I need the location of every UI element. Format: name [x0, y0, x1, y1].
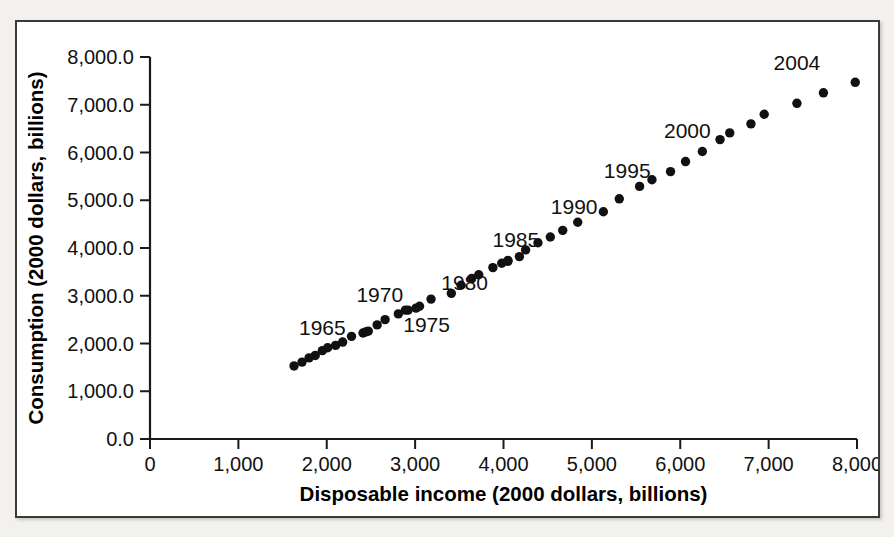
year-annotation-label: 1965 — [299, 316, 346, 339]
y-tick-label: 4,000.0 — [67, 237, 134, 259]
scatter-plot: 0.01,000.02,000.03,000.04,000.05,000.06,… — [17, 22, 878, 516]
data-point — [503, 257, 512, 266]
x-tick-label: 4,000 — [478, 453, 528, 475]
year-annotation-label: 1980 — [441, 271, 488, 294]
x-tick-label: 0 — [144, 453, 155, 475]
x-tick-labels-group: 01,0002,0003,0004,0005,0006,0007,0008,00… — [144, 453, 878, 475]
data-point — [558, 226, 567, 235]
year-annotation-label: 2000 — [664, 119, 711, 142]
y-tick-label: 0.0 — [106, 428, 134, 450]
data-point — [426, 294, 435, 303]
axis-ticks-group — [140, 57, 857, 449]
year-annotations-group: 196519701975198019851990199520002004 — [299, 51, 821, 339]
year-annotation-label: 1995 — [604, 159, 651, 182]
y-tick-label: 6,000.0 — [67, 142, 134, 164]
x-tick-label: 3,000 — [390, 453, 440, 475]
y-tick-label: 3,000.0 — [67, 285, 134, 307]
y-tick-label: 8,000.0 — [67, 46, 134, 68]
data-point — [725, 128, 734, 137]
data-point — [698, 147, 707, 156]
data-point — [372, 320, 381, 329]
data-point — [615, 194, 624, 203]
data-point — [666, 167, 675, 176]
data-point — [760, 110, 769, 119]
data-point — [792, 99, 801, 108]
data-point — [364, 326, 373, 335]
data-point — [415, 302, 424, 311]
x-tick-label: 1,000 — [213, 453, 263, 475]
data-point — [746, 119, 755, 128]
data-point — [488, 263, 497, 272]
data-point — [715, 135, 724, 144]
y-tick-labels-group: 0.01,000.02,000.03,000.04,000.05,000.06,… — [67, 46, 134, 450]
figure-frame: 0.01,000.02,000.03,000.04,000.05,000.06,… — [15, 20, 880, 518]
x-tick-label: 8,000 — [832, 453, 878, 475]
y-tick-label: 1,000.0 — [67, 380, 134, 402]
data-points-group — [289, 78, 860, 371]
x-tick-label: 7,000 — [744, 453, 794, 475]
x-tick-label: 5,000 — [567, 453, 617, 475]
year-annotation-label: 1975 — [403, 313, 450, 336]
year-annotation-label: 1985 — [493, 228, 540, 251]
data-point — [599, 207, 608, 216]
y-tick-label: 2,000.0 — [67, 333, 134, 355]
data-point — [851, 78, 860, 87]
data-point — [635, 182, 644, 191]
data-point — [819, 88, 828, 97]
y-tick-label: 7,000.0 — [67, 94, 134, 116]
data-point — [573, 218, 582, 227]
year-annotation-label: 1970 — [356, 283, 403, 306]
year-annotation-label: 1990 — [551, 195, 598, 218]
data-point — [380, 315, 389, 324]
x-tick-label: 6,000 — [655, 453, 705, 475]
x-axis-title: Disposable income (2000 dollars, billion… — [300, 482, 708, 505]
y-tick-label: 5,000.0 — [67, 189, 134, 211]
x-tick-label: 2,000 — [302, 453, 352, 475]
data-point — [546, 232, 555, 241]
data-point — [347, 332, 356, 341]
year-annotation-label: 2004 — [774, 51, 821, 74]
data-point — [323, 343, 332, 352]
data-point — [681, 157, 690, 166]
y-axis-title: Consumption (2000 dollars, billions) — [24, 71, 47, 424]
